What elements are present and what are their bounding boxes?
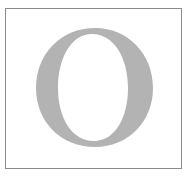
drop-cap-letter-o: [0, 0, 193, 180]
